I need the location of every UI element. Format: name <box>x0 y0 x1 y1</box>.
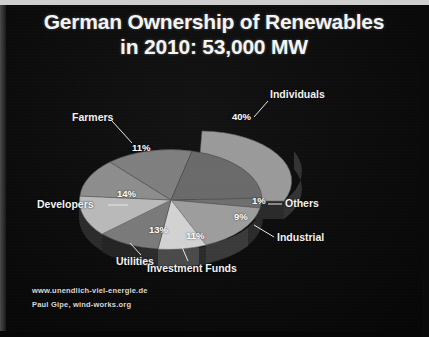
pie-value-utilities: 13% <box>149 224 168 235</box>
scan-edge-bottom <box>0 331 429 337</box>
pie-value-investment-funds: 11% <box>186 230 205 241</box>
pie-label-farmers: Farmers <box>72 111 113 123</box>
chart-title-line-1: German Ownership of Renewables <box>44 10 385 33</box>
pie-chart-svg <box>6 59 422 289</box>
leader-line-farmers <box>112 121 132 143</box>
pie-value-industrial: 9% <box>234 211 248 222</box>
source-website: www.unendlich-viel-energie.de <box>32 286 148 295</box>
pie-label-others: Others <box>285 197 319 209</box>
pie-label-individuals: Individuals <box>270 88 325 100</box>
pie-label-investment-funds: Investment Funds <box>147 262 237 274</box>
pie-value-developers: 14% <box>117 188 136 199</box>
pie-label-developers: Developers <box>37 198 94 210</box>
chart-title: German Ownership of Renewables in 2010: … <box>6 9 422 59</box>
slide-photo: German Ownership of Renewables in 2010: … <box>0 0 429 337</box>
pie-chart: Individuals Farmers Developers Utilities… <box>6 59 422 289</box>
chart-title-line-2: in 2010: 53,000 MW <box>6 34 422 59</box>
leader-line-individuals <box>254 101 268 117</box>
pie-value-individuals: 40% <box>232 111 251 122</box>
pie-value-farmers: 11% <box>132 142 151 153</box>
pie-label-industrial: Industrial <box>277 231 324 243</box>
pie-value-others: 1% <box>252 195 266 206</box>
scan-edge-right <box>422 5 429 337</box>
source-author: Paul Gipe, wind-works.org <box>32 300 131 309</box>
chart-board: German Ownership of Renewables in 2010: … <box>6 5 422 331</box>
